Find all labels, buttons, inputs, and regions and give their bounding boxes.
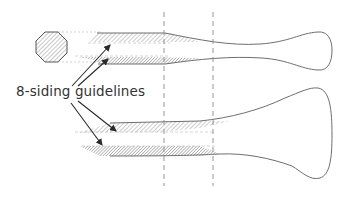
guidelines-label: 8-siding guidelines [16,83,145,99]
upper-tapered-shaft [75,32,332,70]
lower-flared-shaft [75,88,332,179]
diagram-canvas [0,0,351,203]
